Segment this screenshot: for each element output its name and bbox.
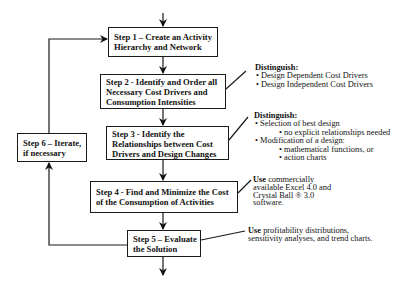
step-4-box: Step 4 - Find and Minimize the Cost of t… — [90, 181, 238, 213]
step-3-line-2: Relationships between Cost — [112, 139, 223, 149]
step-5-annotation: Use profitability distributions, sensiti… — [248, 227, 373, 243]
step-1-line-1: Step 1 – Create an Activity — [114, 32, 212, 42]
step-4-line-1: Step 4 - Find and Minimize the Cost — [96, 187, 232, 197]
step-2-line-1: Step 2 - Identify and Order all — [106, 77, 220, 87]
step-2-line-3: Consumption Intensities — [106, 97, 220, 107]
step-1-box: Step 1 – Create an Activity Hierarchy an… — [108, 27, 218, 57]
step-3-box: Step 3 - Identify the Relationships betw… — [106, 126, 229, 160]
step-3-line-1: Step 3 - Identify the — [112, 129, 223, 139]
leader-step5 — [201, 231, 245, 240]
step-3-annotation: Distinguish: • Selection of best design … — [254, 112, 390, 162]
leader-step2 — [226, 71, 246, 89]
step-5-line-2: the Solution — [133, 244, 195, 254]
annotation-bullet: • Design Independent Cost Drivers — [255, 81, 373, 89]
leader-step3 — [229, 117, 248, 140]
step-1-line-2: Hierarchy and Network — [114, 42, 212, 52]
annotation-sub-bullet: • action charts — [254, 154, 390, 162]
step-5-line-1: Step 5 – Evaluate — [133, 234, 195, 244]
step-2-box: Step 2 - Identify and Order all Necessar… — [100, 74, 226, 109]
step-4-annotation: Use commercially available Excel 4.0 and… — [253, 176, 331, 207]
step-4-line-2: of the Consumption of Activities — [96, 197, 232, 207]
step-3-line-3: Drivers and Design Changes — [112, 149, 223, 159]
annotation-text: software. — [253, 199, 331, 207]
leader-step4 — [238, 180, 251, 193]
step-6-line-2: if necessary — [23, 148, 81, 158]
arrow-step6-step1 — [49, 39, 107, 133]
annotation-text: sensitivity analyses, and trend charts. — [248, 235, 373, 243]
step-2-line-2: Necessary Cost Drivers and — [106, 87, 220, 97]
step-6-line-1: Step 6 – Iterate, — [23, 138, 81, 148]
step-2-annotation: Distinguish: • Design Dependent Cost Dri… — [255, 64, 373, 89]
step-6-box: Step 6 – Iterate, if necessary — [17, 133, 87, 162]
step-5-box: Step 5 – Evaluate the Solution — [127, 230, 201, 257]
